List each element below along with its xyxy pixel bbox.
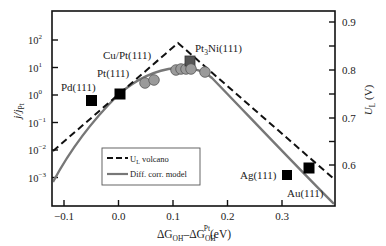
svg-text:100: 100 bbox=[28, 88, 43, 101]
svg-text:10−3: 10−3 bbox=[28, 171, 46, 184]
x-axis-tick-labels: −0.1 0.0 0.1 0.2 0.3 bbox=[54, 210, 289, 222]
label-pt3ni: Pt3Ni(111) bbox=[195, 42, 242, 57]
y-right-axis-ticks bbox=[329, 22, 335, 165]
y-right-axis-label: UL (V) bbox=[362, 84, 377, 115]
label-pd: Pd(111) bbox=[61, 81, 96, 94]
pd-point bbox=[86, 95, 97, 106]
label-pt: Pt(111) bbox=[97, 67, 130, 80]
ag-point bbox=[282, 170, 292, 180]
legend: UL volcano Diff. corr. model bbox=[102, 148, 200, 185]
svg-text:0.0: 0.0 bbox=[112, 210, 126, 222]
label-cu-pt: Cu/Pt(111) bbox=[103, 49, 151, 62]
label-au: Au(111) bbox=[287, 187, 324, 200]
y-left-axis-tick-labels: 102 101 100 10−1 10−2 10−3 bbox=[28, 33, 46, 184]
y-right-axis-tick-labels: 0.9 0.8 0.7 0.6 bbox=[342, 16, 356, 171]
svg-text:0.6: 0.6 bbox=[342, 159, 356, 171]
x-axis-label: ΔGOH–ΔGOHPt(eV) bbox=[157, 224, 231, 243]
svg-text:0.9: 0.9 bbox=[342, 16, 356, 28]
svg-text:0.3: 0.3 bbox=[275, 210, 289, 222]
svg-text:0.7: 0.7 bbox=[342, 112, 356, 124]
svg-text:102: 102 bbox=[28, 33, 43, 46]
y-left-axis-ticks bbox=[52, 40, 58, 178]
svg-text:10−2: 10−2 bbox=[28, 143, 46, 156]
volcano-plot: −0.1 0.0 0.1 0.2 0.3 102 101 100 10−1 10… bbox=[0, 0, 386, 246]
svg-text:0.8: 0.8 bbox=[342, 64, 356, 76]
legend-ul-volcano-label: UL volcano bbox=[130, 154, 169, 165]
svg-text:10−1: 10−1 bbox=[28, 116, 46, 129]
svg-text:0.2: 0.2 bbox=[221, 210, 235, 222]
svg-text:−0.1: −0.1 bbox=[54, 210, 74, 222]
svg-text:101: 101 bbox=[28, 61, 43, 74]
x-axis-ticks bbox=[64, 200, 282, 206]
y-left-axis-label: j/jPt bbox=[11, 102, 26, 120]
svg-text:0.1: 0.1 bbox=[166, 210, 180, 222]
au-point bbox=[304, 163, 315, 174]
legend-diff-corr-label: Diff. corr. model bbox=[130, 169, 188, 179]
pt-point bbox=[115, 89, 126, 100]
label-ag: Ag(111) bbox=[240, 169, 277, 182]
